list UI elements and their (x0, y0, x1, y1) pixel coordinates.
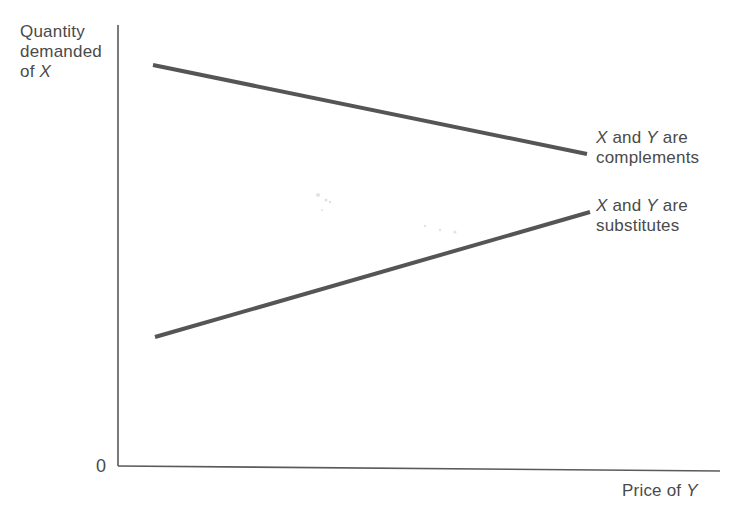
scan-artifact (316, 193, 457, 234)
are-text: are (658, 196, 688, 215)
y-axis-label-line1: Quantity (20, 22, 102, 42)
complements-annotation-line2: complements (596, 148, 699, 168)
x-axis-label: Price of Y (622, 481, 698, 501)
diagram-canvas (0, 0, 742, 518)
y-axis-label-prefix: of (20, 62, 40, 81)
var-x: X (596, 128, 608, 147)
x-axis (118, 466, 720, 471)
and-text: and (608, 128, 647, 147)
y-axis-variable: X (40, 62, 52, 81)
substitutes-annotation-line1: X and Y are (596, 196, 688, 216)
origin-label: 0 (96, 456, 106, 476)
complements-annotation: X and Y are complements (596, 128, 699, 168)
y-axis-label: Quantity demanded of X (20, 22, 102, 82)
var-y: Y (646, 128, 658, 147)
substitutes-annotation: X and Y are substitutes (596, 196, 688, 236)
complements-line (153, 65, 587, 154)
substitutes-annotation-line2: substitutes (596, 216, 688, 236)
complements-annotation-line1: X and Y are (596, 128, 699, 148)
var-y: Y (646, 196, 658, 215)
are-text: are (658, 128, 688, 147)
substitutes-line (155, 212, 590, 337)
x-axis-variable: Y (686, 481, 698, 500)
and-text: and (608, 196, 647, 215)
x-axis-label-prefix: Price of (622, 481, 686, 500)
y-axis-label-line3: of X (20, 62, 102, 82)
var-x: X (596, 196, 608, 215)
y-axis-label-line2: demanded (20, 42, 102, 62)
